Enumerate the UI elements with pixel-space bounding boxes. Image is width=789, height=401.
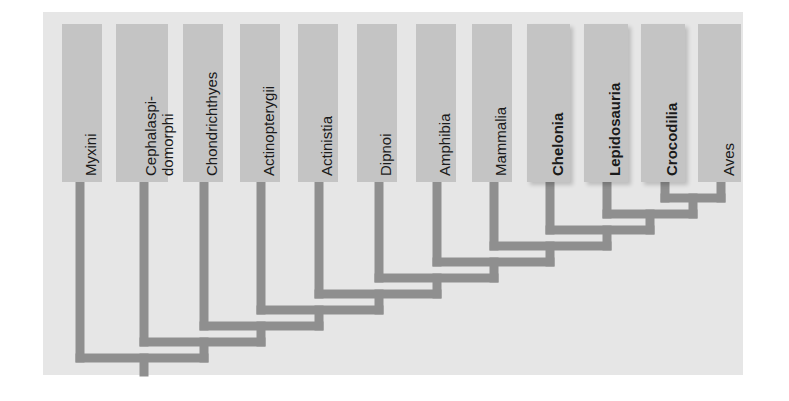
taxon-amphibia: Amphibia — [416, 24, 456, 182]
taxon-label-line1: Cephalaspi- — [142, 96, 159, 176]
taxon-label-line2: domorphi — [159, 113, 176, 176]
taxon-label: Dipnoi — [377, 133, 394, 176]
taxon-label: Actinopterygii — [260, 86, 277, 176]
taxon-crocodilia: Crocodilia — [641, 24, 685, 182]
taxon-dipnoi: Dipnoi — [357, 24, 397, 182]
taxon-label: Chelonia — [549, 113, 566, 176]
taxon-aves: Aves — [698, 24, 741, 182]
taxon-mammalia: Mammalia — [472, 24, 512, 182]
taxon-label: Cephalaspi-domorphi — [142, 96, 176, 176]
taxon-cephalaspidomorphi: Cephalaspi-domorphi — [116, 24, 168, 182]
taxon-label: Chondrichthyes — [203, 72, 220, 176]
taxon-label: Amphibia — [436, 113, 453, 176]
taxon-myxini: Myxini — [62, 24, 102, 182]
taxon-label: Actinistia — [318, 116, 335, 176]
taxon-label: Mammalia — [492, 107, 509, 176]
taxon-label: Myxini — [82, 133, 99, 176]
taxon-actinistia: Actinistia — [298, 24, 338, 182]
taxon-chelonia: Chelonia — [527, 24, 570, 182]
taxon-label: Crocodilia — [663, 103, 680, 176]
taxon-lepidosauria: Lepidosauria — [584, 24, 628, 182]
taxon-chondrichthyes: Chondrichthyes — [183, 24, 223, 182]
taxon-label: Aves — [720, 143, 737, 176]
taxon-label: Lepidosauria — [606, 83, 623, 176]
taxon-actinopterygii: Actinopterygii — [240, 24, 280, 182]
